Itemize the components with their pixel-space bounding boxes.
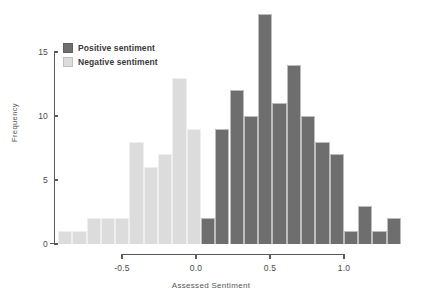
histogram-bar	[301, 116, 315, 244]
histogram-chart: 051015 Frequency -0.50.00.51.0 Assessed …	[0, 0, 422, 301]
x-axis-line	[122, 254, 344, 255]
histogram-bar	[372, 231, 386, 244]
y-tick-mark	[54, 51, 58, 52]
histogram-bar	[129, 142, 143, 244]
y-axis-line	[54, 52, 55, 244]
histogram-bar	[258, 14, 272, 244]
y-tick-label: 5	[43, 175, 48, 185]
y-tick-label: 15	[38, 47, 48, 57]
histogram-bar	[58, 231, 72, 244]
legend-item: Negative sentiment	[63, 56, 158, 68]
y-tick-mark	[54, 179, 58, 180]
histogram-bar	[101, 218, 115, 244]
y-tick-label: 0	[43, 239, 48, 249]
histogram-bar	[287, 65, 301, 244]
legend-item: Positive sentiment	[63, 42, 158, 54]
histogram-bar	[87, 218, 101, 244]
x-axis-title: Assessed Sentiment	[0, 281, 422, 290]
legend-label: Positive sentiment	[78, 43, 155, 53]
histogram-bar	[387, 218, 401, 244]
y-axis-title: Frequency	[10, 93, 19, 153]
histogram-bar	[358, 206, 372, 244]
y-tick-mark	[54, 243, 58, 244]
x-tick-label: 0.5	[250, 263, 290, 273]
x-tick-label: -0.5	[102, 263, 142, 273]
histogram-bar	[330, 154, 344, 244]
x-tick-mark	[195, 254, 196, 259]
histogram-bar	[230, 90, 244, 244]
histogram-bar	[272, 103, 286, 244]
histogram-bar	[144, 167, 158, 244]
histogram-bar	[201, 218, 215, 244]
histogram-bar	[315, 142, 329, 244]
legend-swatch-icon	[63, 43, 73, 53]
histogram-bar	[172, 78, 186, 244]
x-tick-label: 1.0	[324, 263, 364, 273]
histogram-bar	[344, 231, 358, 244]
y-tick-mark	[54, 115, 58, 116]
legend-swatch-icon	[63, 57, 73, 67]
x-tick-mark	[269, 254, 270, 259]
chart-legend: Positive sentimentNegative sentiment	[63, 42, 158, 70]
histogram-bar	[158, 154, 172, 244]
x-tick-mark	[343, 254, 344, 259]
legend-label: Negative sentiment	[78, 57, 158, 67]
histogram-bar	[115, 218, 129, 244]
x-tick-mark	[121, 254, 122, 259]
x-tick-label: 0.0	[176, 263, 216, 273]
y-tick-label: 10	[38, 111, 48, 121]
histogram-bar	[187, 129, 201, 244]
histogram-bar	[244, 116, 258, 244]
histogram-bar	[215, 129, 229, 244]
histogram-bar	[72, 231, 86, 244]
